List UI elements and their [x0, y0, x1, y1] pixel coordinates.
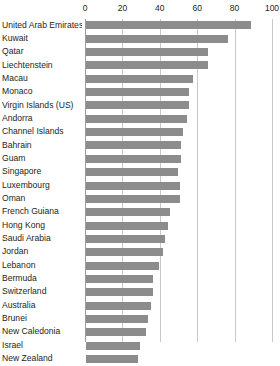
- bar: [86, 302, 151, 310]
- category-label: Lebanon: [2, 260, 82, 271]
- bar-row: New Zealand: [0, 353, 277, 366]
- category-label: Bahrain: [2, 140, 82, 151]
- bar-row: New Caledonia: [0, 326, 277, 339]
- bar: [86, 61, 208, 69]
- bar-row: French Guiana: [0, 206, 277, 219]
- bar-row: Luxembourg: [0, 179, 277, 192]
- category-label: Jordan: [2, 246, 82, 257]
- bar: [86, 168, 178, 176]
- x-tick-label-20: 20: [118, 3, 127, 13]
- bar: [86, 195, 180, 203]
- category-label: Bermuda: [2, 273, 82, 284]
- bar-row: Andorra: [0, 112, 277, 125]
- bar: [86, 208, 170, 216]
- bar: [86, 342, 140, 350]
- bar: [86, 48, 208, 56]
- bar: [86, 355, 138, 363]
- category-label: Hong Kong: [2, 220, 82, 231]
- bar-row: Monaco: [0, 86, 277, 99]
- x-tick-label-0: 0: [83, 3, 88, 13]
- category-label: French Guiana: [2, 206, 82, 217]
- x-axis-tick-labels: 020406080100: [0, 0, 277, 18]
- bar: [86, 262, 159, 270]
- category-label: Monaco: [2, 86, 82, 97]
- bar: [86, 248, 163, 256]
- category-label: Virgin Islands (US): [2, 100, 82, 111]
- bar-row: Saudi Arabia: [0, 233, 277, 246]
- category-label: Luxembourg: [2, 180, 82, 191]
- category-label: Brunei: [2, 313, 82, 324]
- bar: [86, 35, 228, 43]
- category-label: Israel: [2, 340, 82, 351]
- category-label: Qatar: [2, 46, 82, 57]
- bar-row: Bahrain: [0, 139, 277, 152]
- bar-row: Liechtenstein: [0, 59, 277, 72]
- category-label: Singapore: [2, 166, 82, 177]
- category-label: Australia: [2, 300, 82, 311]
- bar-row: Singapore: [0, 166, 277, 179]
- bar-rows: United Arab EmiratesKuwaitQatarLiechtens…: [0, 19, 277, 366]
- category-label: Kuwait: [2, 33, 82, 44]
- bar: [86, 21, 251, 29]
- category-label: Macau: [2, 73, 82, 84]
- category-label: Switzerland: [2, 286, 82, 297]
- bar: [86, 128, 183, 136]
- bar-row: Brunei: [0, 313, 277, 326]
- bar: [86, 75, 193, 83]
- bar: [86, 155, 181, 163]
- category-label: Guam: [2, 153, 82, 164]
- bar-row: Lebanon: [0, 259, 277, 272]
- bar-row: Bermuda: [0, 273, 277, 286]
- bar-row: Qatar: [0, 46, 277, 59]
- bar: [86, 182, 180, 190]
- bar-row: Israel: [0, 339, 277, 352]
- bar: [86, 115, 187, 123]
- bar-row: Jordan: [0, 246, 277, 259]
- category-label: Oman: [2, 193, 82, 204]
- bar: [86, 275, 153, 283]
- bar-row: Guam: [0, 152, 277, 165]
- x-tick-label-60: 60: [192, 3, 201, 13]
- category-label: Andorra: [2, 113, 82, 124]
- bar: [86, 315, 148, 323]
- bar: [86, 222, 168, 230]
- category-label: Channel Islands: [2, 126, 82, 137]
- category-label: Liechtenstein: [2, 60, 82, 71]
- bar-row: Channel Islands: [0, 126, 277, 139]
- bar-row: Kuwait: [0, 32, 277, 45]
- x-tick-label-40: 40: [155, 3, 164, 13]
- bar: [86, 235, 165, 243]
- bar-row: Virgin Islands (US): [0, 99, 277, 112]
- bar-row: Australia: [0, 299, 277, 312]
- bar: [86, 328, 146, 336]
- x-tick-label-100: 100: [265, 3, 279, 13]
- category-label: Saudi Arabia: [2, 233, 82, 244]
- bar-row: Hong Kong: [0, 219, 277, 232]
- bar: [86, 141, 181, 149]
- bar-row: United Arab Emirates: [0, 19, 277, 32]
- bar-row: Macau: [0, 72, 277, 85]
- x-tick-label-80: 80: [230, 3, 239, 13]
- bar-row: Switzerland: [0, 286, 277, 299]
- category-label: United Arab Emirates: [2, 20, 82, 31]
- category-label: New Caledonia: [2, 326, 82, 337]
- bar: [86, 101, 189, 109]
- category-label: New Zealand: [2, 353, 82, 364]
- bar: [86, 88, 189, 96]
- bar: [86, 288, 153, 296]
- bar-row: Oman: [0, 192, 277, 205]
